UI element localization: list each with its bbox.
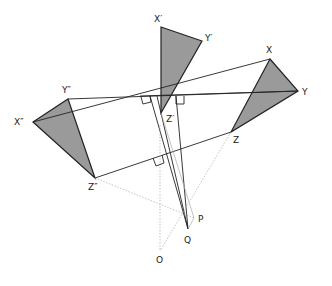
- label-z: Z: [233, 135, 239, 145]
- label-x2: X″: [14, 117, 24, 127]
- triangle-x2y2z2: [33, 99, 95, 178]
- label-z1: Z′: [166, 114, 174, 124]
- label-y: Y: [301, 87, 308, 97]
- label-x1: X′: [154, 14, 162, 24]
- label-p: P: [198, 214, 204, 224]
- line-z-o: [160, 132, 231, 251]
- label-o: O: [156, 255, 163, 265]
- line-z2-z: [95, 132, 231, 178]
- right-angle-mark: [176, 96, 184, 104]
- triangle-x1y1z1: [161, 27, 202, 113]
- label-z2: Z″: [88, 182, 98, 192]
- label-y1: Y′: [204, 33, 213, 43]
- label-x: X: [266, 45, 272, 55]
- label-y2: Y″: [61, 85, 71, 95]
- right-angle-mark: [141, 96, 151, 104]
- label-q: Q: [184, 235, 191, 245]
- line-q-p: [188, 218, 194, 229]
- triangle-xyz: [231, 59, 298, 132]
- geometry-diagram: X′ Y′ Z′ X Y Z X″ Y″ Z″ P Q O: [0, 0, 332, 286]
